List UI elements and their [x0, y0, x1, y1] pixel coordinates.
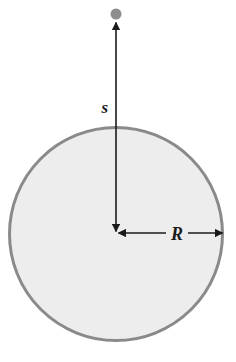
- physics-diagram-svg: s R: [0, 0, 236, 362]
- radius-label-R: R: [170, 224, 183, 244]
- point-mass-dot: [111, 9, 122, 20]
- figure-container: s R: [0, 0, 236, 362]
- distance-label-s: s: [100, 98, 108, 117]
